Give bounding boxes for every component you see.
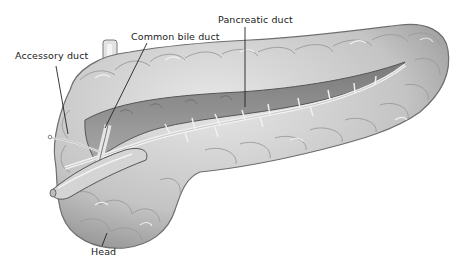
pancreas-illustration — [0, 0, 460, 268]
label-pancreatic-duct: Pancreatic duct — [218, 14, 293, 25]
label-head: Head — [91, 246, 116, 257]
pancreas-diagram: Accessory duct Common bile duct Pancreat… — [0, 0, 460, 268]
label-common-bile-duct: Common bile duct — [131, 31, 220, 42]
label-accessory-duct: Accessory duct — [15, 50, 88, 61]
